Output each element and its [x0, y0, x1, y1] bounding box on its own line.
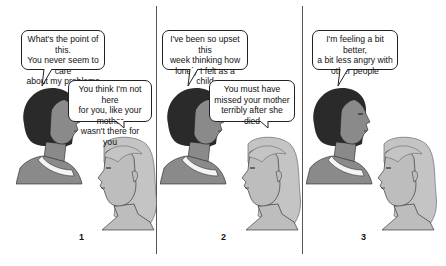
speech-bubble-client: What's the point of this. You never seem…: [21, 30, 105, 70]
speech-bubble-client: I'm feeling a bit better, a bit less ang…: [312, 30, 398, 70]
bubble-tail-icon: [186, 68, 200, 88]
bubble-tail-icon: [258, 120, 272, 130]
therapist-figure-icon: [228, 134, 304, 234]
bubble-tail-icon: [40, 68, 54, 88]
speech-bubble-therapist: You think I'm not here for you, like you…: [68, 80, 152, 122]
bubble-tail-icon: [336, 68, 350, 88]
panel-number: 1: [79, 232, 84, 242]
speech-bubble-therapist: You must have missed your mother terribl…: [209, 80, 295, 122]
bubble-tail-icon: [114, 120, 128, 130]
therapist-figure-icon: [364, 134, 440, 234]
therapist-figure-icon: [84, 134, 160, 234]
panel-number: 3: [361, 232, 366, 242]
panel-number: 2: [221, 232, 226, 242]
speech-bubble-client: I've been so upset this week thinking ho…: [162, 30, 248, 70]
